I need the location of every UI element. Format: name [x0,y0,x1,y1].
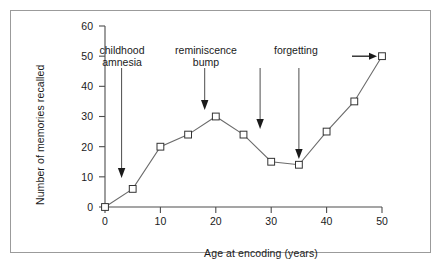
x-tick-label-40: 40 [315,215,339,227]
annotation-childhood-amnesia-line2: amnesia [89,57,155,69]
arrow-forgetting-head [295,149,302,159]
x-tick-label-10: 10 [148,215,172,227]
x-tick-label-50: 50 [370,215,394,227]
x-tick-label-0: 0 [93,215,117,227]
y-axis-title: Number of memories recalled [34,65,46,205]
arrow-forgetting-right-head [369,53,377,60]
annotation-forgetting: forgetting [274,45,334,57]
y-tick-label-20: 20 [71,141,93,153]
annotation-forgetting-line1: forgetting [274,45,334,57]
y-tick-label-60: 60 [71,20,93,32]
annotation-reminiscence-bump: reminiscence bump [168,45,244,68]
x-tick-label-20: 20 [204,215,228,227]
annotation-childhood-amnesia-line1: childhood [89,45,155,57]
annotation-childhood-amnesia: childhood amnesia [89,45,155,68]
y-tick-label-10: 10 [71,171,93,183]
annotation-reminiscence-bump-line1: reminiscence [168,45,244,57]
arrow-reminiscence-bump-head [201,100,208,110]
figure-border: 60 50 40 30 20 10 0 0 10 20 30 40 50 Num… [10,10,431,253]
annotation-reminiscence-bump-line2: bump [168,57,244,69]
x-axis-title: Age at encoding (years) [131,247,391,259]
arrow-childhood-amnesia-head [118,168,125,178]
figure-container: 60 50 40 30 20 10 0 0 10 20 30 40 50 Num… [0,0,443,273]
y-tick-label-0: 0 [71,201,93,213]
data-markers [102,53,386,211]
y-tick-label-30: 30 [71,110,93,122]
y-tick-label-40: 40 [71,80,93,92]
x-tick-label-30: 30 [259,215,283,227]
arrow-reminiscence-bump-second-head [256,119,263,129]
annotation-arrows [118,53,377,178]
x-axis-ticks [105,207,382,213]
